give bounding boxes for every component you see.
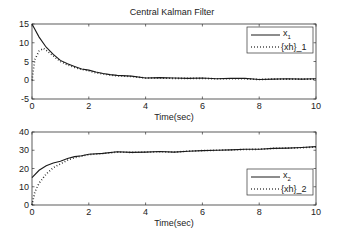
- y-tick-label: 5: [24, 57, 29, 67]
- y-tick-label: 0: [24, 75, 29, 85]
- chart-title: Central Kalman Filter: [130, 7, 215, 17]
- y-tick-label: 0: [24, 200, 29, 210]
- y-tick-label: 30: [19, 145, 29, 155]
- x-tick-label: 4: [143, 101, 148, 111]
- x-tick-label: 8: [257, 101, 262, 111]
- x-tick-label: 0: [29, 207, 34, 217]
- bottom-axes: 0246810010203040 Time(sec) x2 {xh}_2: [19, 127, 321, 228]
- x-tick-label: 10: [311, 101, 321, 111]
- x-tick-label: 8: [257, 207, 262, 217]
- y-tick-label: 20: [19, 164, 29, 174]
- figure: Central Kalman Filter 0246810-5051015 Ti…: [0, 0, 337, 236]
- x-tick-label: 10: [311, 207, 321, 217]
- x-tick-label: 6: [200, 207, 205, 217]
- bottom-x-axis-label: Time(sec): [154, 218, 194, 228]
- y-tick-label: 40: [19, 127, 29, 137]
- x-tick-label: 4: [143, 207, 148, 217]
- legend-label-xh1: {xh}_1: [281, 42, 307, 52]
- top-axes: 0246810-5051015 Time(sec) x1 {xh}_1: [19, 19, 321, 122]
- y-tick-label: 15: [19, 19, 29, 29]
- top-legend: x1 {xh}_1: [247, 27, 313, 53]
- y-tick-label: 10: [19, 182, 29, 192]
- y-tick-label: -5: [21, 94, 29, 104]
- bottom-legend: x2 {xh}_2: [247, 169, 313, 195]
- top-x-axis-label: Time(sec): [154, 112, 194, 122]
- y-tick-label: 10: [19, 38, 29, 48]
- x-tick-label: 0: [29, 101, 34, 111]
- x-tick-label: 2: [86, 101, 91, 111]
- x-tick-label: 2: [86, 207, 91, 217]
- x-tick-label: 6: [200, 101, 205, 111]
- legend-label-xh2: {xh}_2: [281, 184, 307, 194]
